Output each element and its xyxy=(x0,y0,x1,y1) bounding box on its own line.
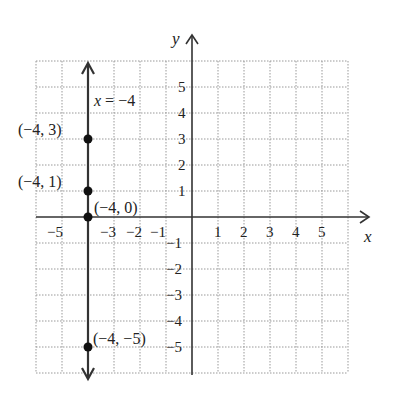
point-label-neg4-0: (−4, 0) xyxy=(94,200,138,216)
y-tick-5: 5 xyxy=(178,80,186,95)
x-tick-neg5: −5 xyxy=(47,225,63,240)
y-axis xyxy=(186,35,198,375)
point-label-neg4-1: (−4, 1) xyxy=(18,174,62,190)
y-tick-4: 4 xyxy=(178,106,186,121)
x-tick-2: 2 xyxy=(240,225,248,240)
line-equation-label: x = −4 xyxy=(94,93,135,109)
y-tick-1: 1 xyxy=(178,184,186,199)
x-tick-3: 3 xyxy=(266,225,274,240)
y-tick-neg1: −1 xyxy=(166,236,182,251)
x-tick-5: 5 xyxy=(318,225,326,240)
point-label-neg4-neg5: (−4, −5) xyxy=(93,331,146,347)
coordinate-plane: y x x = −4 (−4, 3) (−4, 1) (−4, 0) (−4, … xyxy=(0,0,400,400)
x-tick-1: 1 xyxy=(214,225,222,240)
y-tick-neg2: −2 xyxy=(166,262,182,277)
y-tick-neg3: −3 xyxy=(166,288,182,303)
x-tick-neg2: −2 xyxy=(126,225,142,240)
x-axis-label: x xyxy=(364,228,372,245)
y-tick-3: 3 xyxy=(178,132,186,147)
x-tick-4: 4 xyxy=(292,225,300,240)
point-neg4-1 xyxy=(84,187,93,196)
graph-canvas xyxy=(0,0,400,400)
point-neg4-3 xyxy=(84,135,93,144)
x-tick-neg1: −1 xyxy=(150,225,166,240)
point-neg4-0 xyxy=(84,213,93,222)
point-neg4-neg5 xyxy=(84,343,93,352)
y-axis-label: y xyxy=(172,30,180,47)
y-tick-2: 2 xyxy=(178,158,186,173)
x-tick-neg3: −3 xyxy=(100,225,116,240)
point-label-neg4-3: (−4, 3) xyxy=(18,122,62,138)
y-tick-neg5: −5 xyxy=(166,340,182,355)
y-tick-neg4: −4 xyxy=(166,314,182,329)
